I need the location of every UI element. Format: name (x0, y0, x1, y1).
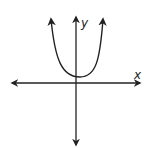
y-axis-label: y (80, 16, 89, 30)
x-axis-label: x (133, 68, 142, 82)
parabola-curve (51, 19, 103, 77)
graph-canvas: y x (0, 0, 148, 148)
